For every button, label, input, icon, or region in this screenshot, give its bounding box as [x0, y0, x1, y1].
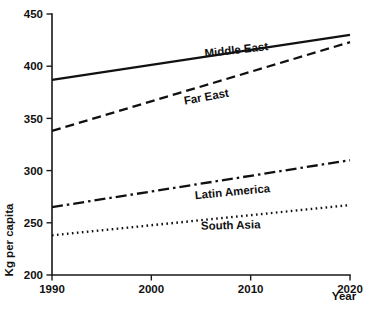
y-tick-label: 200 [24, 269, 43, 281]
series-label-south-asia: South Asia [201, 218, 262, 232]
x-tick-label: 1990 [39, 283, 65, 295]
series-label-latin-america: Latin America [194, 182, 271, 201]
y-tick-label: 450 [24, 8, 43, 20]
x-axis-title: Year [332, 290, 357, 302]
y-tick-label: 250 [24, 217, 43, 229]
x-tick-label: 2000 [139, 283, 165, 295]
series-line-middle-east [52, 35, 350, 80]
series-label-middle-east: Middle East [204, 40, 269, 59]
y-axis-title: Kg per capita [3, 203, 15, 276]
series-line-far-east [52, 42, 350, 131]
chart-axes [52, 14, 350, 275]
x-tick-label: 2010 [238, 283, 264, 295]
y-tick-label: 300 [24, 165, 43, 177]
y-tick-label: 400 [24, 60, 43, 72]
line-chart: 2002503003504004501990200020102020Middle… [0, 0, 371, 312]
chart-container: 2002503003504004501990200020102020Middle… [0, 0, 371, 312]
y-tick-label: 350 [24, 113, 43, 125]
